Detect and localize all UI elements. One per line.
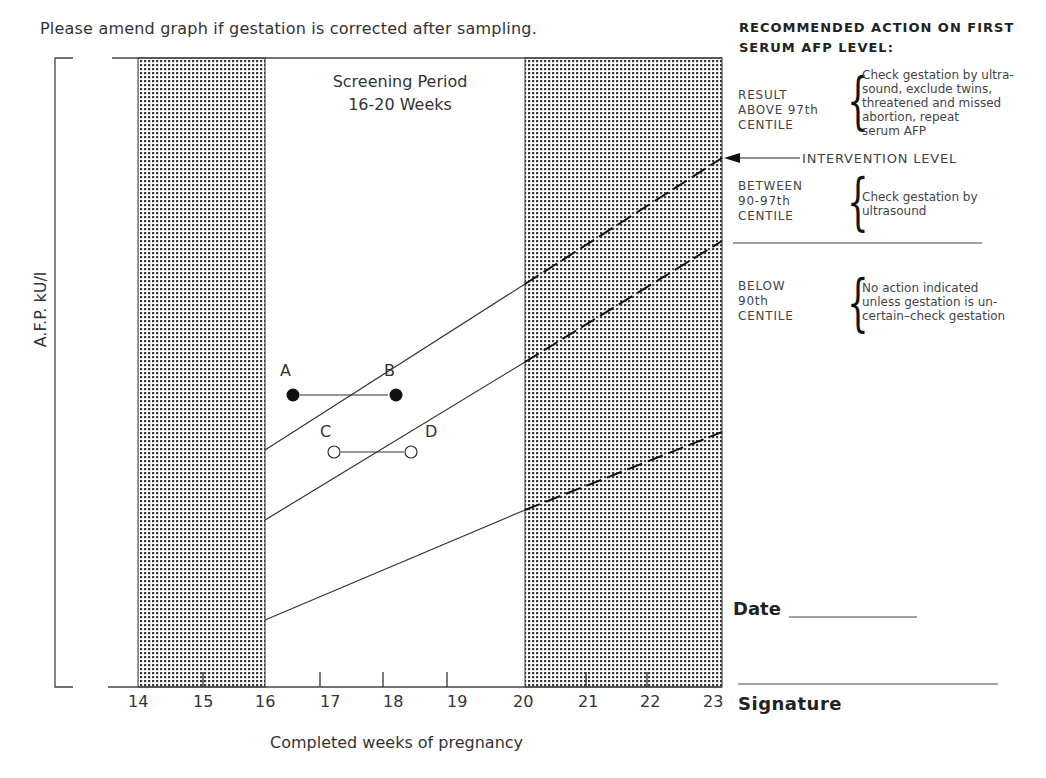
y-axis-label: A.F.P. kU/l: [31, 250, 50, 370]
action-line: sound, exclude twins,: [862, 82, 1014, 96]
action-line: No action indicated: [862, 281, 1005, 295]
action-above-97: Check gestation by ultra- sound, exclude…: [862, 68, 1014, 138]
x-tick-17: 17: [320, 692, 340, 711]
action-line: abortion, repeat: [862, 110, 1014, 124]
action-line: Check gestation by ultra-: [862, 68, 1014, 82]
signature-label: Signature: [738, 693, 842, 714]
x-tick-19: 19: [447, 692, 467, 711]
category-line: CENTILE: [738, 118, 819, 133]
point-c: [328, 446, 340, 458]
category-line: 90th: [738, 294, 794, 309]
point-d-label: D: [425, 422, 437, 441]
x-tick-23: 23: [703, 692, 723, 711]
point-a-label: A: [280, 361, 291, 380]
recommendation-title-line1: RECOMMENDED ACTION ON FIRST: [739, 18, 1014, 38]
category-line: 90-97th: [738, 194, 803, 209]
action-line: Check gestation by: [862, 190, 978, 204]
x-tick-20: 20: [513, 692, 533, 711]
x-axis-label: Completed weeks of pregnancy: [270, 733, 523, 752]
x-tick-18: 18: [383, 692, 403, 711]
point-b: [390, 389, 403, 402]
point-a: [287, 389, 300, 402]
recommendation-title-line2: SERUM AFP LEVEL:: [739, 38, 1014, 58]
category-line: BETWEEN: [738, 179, 803, 194]
shaded-region-14-16: [138, 58, 265, 687]
shaded-region-20-23: [525, 58, 722, 687]
action-line: serum AFP: [862, 124, 1014, 138]
x-tick-21: 21: [578, 692, 598, 711]
screening-period-label: Screening Period 16-20 Weeks: [300, 70, 500, 116]
x-tick-14: 14: [128, 692, 148, 711]
action-line: threatened and missed: [862, 96, 1014, 110]
category-line: CENTILE: [738, 309, 794, 324]
point-c-label: C: [320, 422, 331, 441]
action-90-97: Check gestation by ultrasound: [862, 190, 978, 218]
y-axis-bracket: [55, 58, 73, 687]
category-line: ABOVE 97th: [738, 103, 819, 118]
action-line: ultrasound: [862, 204, 978, 218]
point-d: [405, 446, 417, 458]
intervention-arrow: [724, 153, 800, 163]
x-tick-labels: 14 15 16 17 18 19 20 21 22 23: [0, 692, 760, 716]
x-tick-16: 16: [255, 692, 275, 711]
action-below-90: No action indicated unless gestation is …: [862, 281, 1005, 323]
date-label: Date: [733, 598, 781, 619]
screening-period-line2: 16-20 Weeks: [300, 93, 500, 116]
category-below-90: BELOW 90th CENTILE: [738, 279, 794, 324]
x-tick-15: 15: [193, 692, 213, 711]
action-line: certain–check gestation: [862, 309, 1005, 323]
category-line: RESULT: [738, 88, 819, 103]
category-line: CENTILE: [738, 209, 803, 224]
x-tick-22: 22: [640, 692, 660, 711]
screening-period-line1: Screening Period: [300, 70, 500, 93]
category-90-97: BETWEEN 90-97th CENTILE: [738, 179, 803, 224]
point-b-label: B: [384, 361, 395, 380]
intervention-level-label: INTERVENTION LEVEL: [802, 151, 957, 166]
action-line: unless gestation is un-: [862, 295, 1005, 309]
category-line: BELOW: [738, 279, 794, 294]
category-above-97: RESULT ABOVE 97th CENTILE: [738, 88, 819, 133]
recommendation-title: RECOMMENDED ACTION ON FIRST SERUM AFP LE…: [739, 18, 1014, 58]
